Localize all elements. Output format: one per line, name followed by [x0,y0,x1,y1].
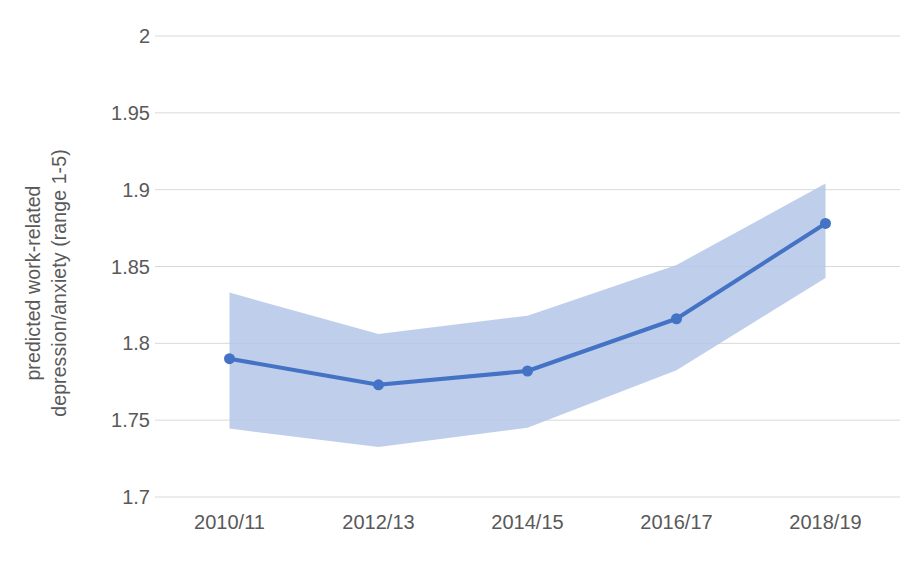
data-point-marker [224,353,235,364]
data-point-marker [373,379,384,390]
confidence-band [230,184,826,448]
data-point-marker [671,313,682,324]
chart-container: predicted work-related depression/anxiet… [0,0,921,566]
data-point-marker [522,365,533,376]
data-point-marker [820,218,831,229]
plot-area [0,0,921,566]
